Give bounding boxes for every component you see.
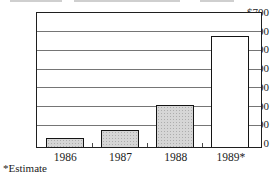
bar-1988 [156,105,194,147]
plot-area [36,12,262,148]
cropped-text-remnant [200,0,234,2]
cropped-text-remnant [10,0,62,2]
bar-1987 [101,130,139,147]
x-axis-tick [92,143,93,147]
bar-1986 [46,138,84,147]
x-axis-label-1989: 1989* [217,151,246,163]
bar-1989 [211,36,249,147]
x-axis-tick [202,143,203,147]
cropped-text-remnant [74,0,180,2]
x-axis-tick [147,143,148,147]
x-axis-label-1987: 1987 [109,151,132,163]
gridline-600 [37,31,261,32]
x-axis-label-1988: 1988 [164,151,187,163]
footnote-estimate: *Estimate [3,162,47,174]
bar-chart-figure: $7006005004003002001000 1986198719881989… [0,0,272,178]
x-axis-label-1986: 1986 [54,151,77,163]
